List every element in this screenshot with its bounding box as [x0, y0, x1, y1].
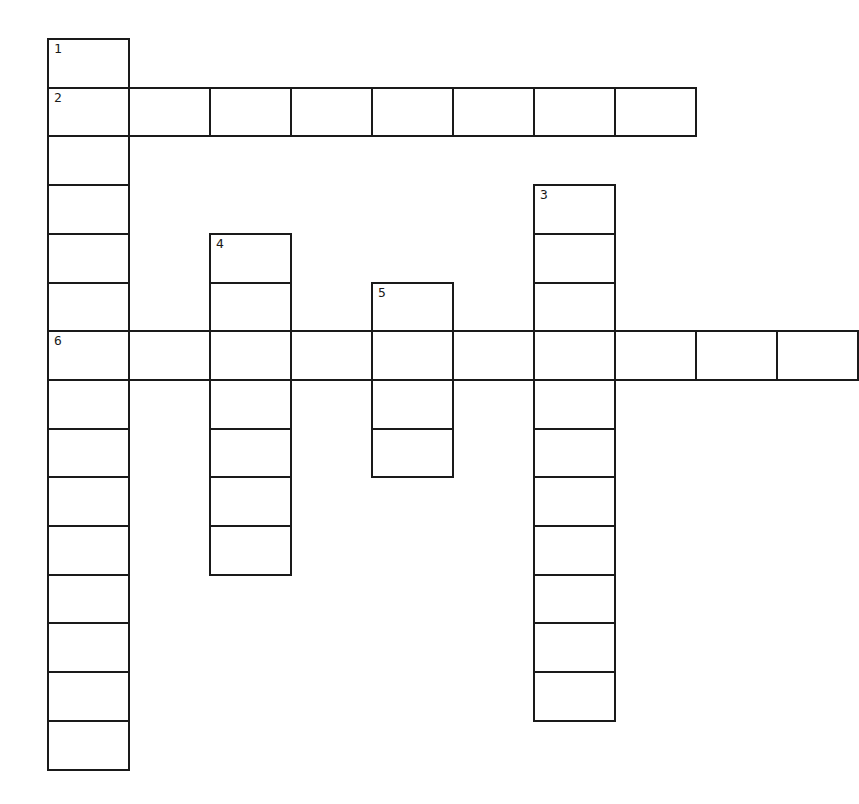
clue-number: 6 — [54, 334, 62, 348]
crossword-cell[interactable] — [47, 184, 130, 235]
crossword-cell[interactable] — [47, 135, 130, 186]
crossword-cell[interactable] — [47, 428, 130, 478]
crossword-cell[interactable] — [209, 428, 292, 478]
crossword-cell[interactable] — [776, 330, 859, 381]
clue-number: 1 — [54, 42, 62, 56]
crossword-cell[interactable] — [533, 428, 616, 478]
crossword-cell[interactable] — [371, 379, 454, 430]
crossword-cell[interactable] — [128, 87, 211, 137]
crossword-cell[interactable] — [452, 330, 535, 381]
crossword-cell[interactable] — [47, 233, 130, 284]
crossword-cell[interactable] — [209, 282, 292, 332]
crossword-cell[interactable]: 6 — [47, 330, 130, 381]
crossword-cell[interactable] — [47, 671, 130, 722]
clue-number: 3 — [540, 188, 548, 202]
crossword-cell[interactable] — [209, 379, 292, 430]
crossword-cell[interactable] — [533, 87, 616, 137]
crossword-cell[interactable] — [533, 379, 616, 430]
crossword-cell[interactable] — [533, 525, 616, 576]
clue-number: 4 — [216, 237, 224, 251]
crossword-cell[interactable] — [371, 428, 454, 478]
crossword-cell[interactable]: 4 — [209, 233, 292, 284]
crossword-cell[interactable] — [533, 233, 616, 284]
crossword-cell[interactable] — [533, 671, 616, 722]
crossword-cell[interactable] — [47, 525, 130, 576]
crossword-cell[interactable] — [533, 622, 616, 673]
crossword-cell[interactable]: 5 — [371, 282, 454, 332]
crossword-cell[interactable]: 3 — [533, 184, 616, 235]
crossword-cell[interactable] — [209, 87, 292, 137]
crossword-cell[interactable] — [533, 330, 616, 381]
crossword-cell[interactable]: 2 — [47, 87, 130, 137]
crossword-cell[interactable] — [533, 282, 616, 332]
clue-number: 5 — [378, 286, 386, 300]
crossword-cell[interactable] — [47, 574, 130, 624]
clue-number: 2 — [54, 91, 62, 105]
crossword-cell[interactable] — [614, 330, 697, 381]
crossword-cell[interactable]: 1 — [47, 38, 130, 89]
crossword-cell[interactable] — [47, 476, 130, 527]
crossword-cell[interactable] — [290, 87, 373, 137]
crossword-cell[interactable] — [209, 525, 292, 576]
crossword-cell[interactable] — [290, 330, 373, 381]
crossword-cell[interactable] — [47, 720, 130, 771]
crossword-cell[interactable] — [371, 87, 454, 137]
crossword-cell[interactable] — [533, 476, 616, 527]
crossword-cell[interactable] — [209, 330, 292, 381]
crossword-cell[interactable] — [47, 622, 130, 673]
crossword-cell[interactable] — [695, 330, 778, 381]
crossword-cell[interactable] — [614, 87, 697, 137]
crossword-cell[interactable] — [452, 87, 535, 137]
crossword-cell[interactable] — [128, 330, 211, 381]
crossword-cell[interactable] — [533, 574, 616, 624]
crossword-cell[interactable] — [371, 330, 454, 381]
crossword-cell[interactable] — [209, 476, 292, 527]
crossword-cell[interactable] — [47, 379, 130, 430]
crossword-cell[interactable] — [47, 282, 130, 332]
